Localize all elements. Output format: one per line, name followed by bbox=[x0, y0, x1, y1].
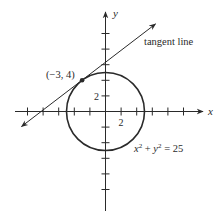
y-tick-label: 2 bbox=[94, 91, 99, 102]
tangent-line-label: tangent line bbox=[144, 36, 194, 47]
circle-equation-label: x2 + y2 = 25 bbox=[133, 142, 183, 154]
x-tick-label: 2 bbox=[119, 117, 124, 128]
tangent-point bbox=[80, 78, 85, 83]
y-axis-label: y bbox=[112, 7, 118, 19]
x-axis-label: x bbox=[207, 105, 213, 117]
tangent-point-label: (−3, 4) bbox=[46, 69, 75, 81]
diagram-canvas: y x 2 2 tangent line (−3, 4) x2 + y2 = 2… bbox=[0, 0, 222, 214]
